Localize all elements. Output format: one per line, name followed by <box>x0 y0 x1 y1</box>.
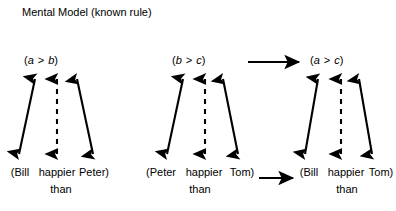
sentence-object: Peter) <box>78 164 110 181</box>
abstract-close-paren: ) <box>340 54 344 66</box>
mapping-arrows-premise-2 <box>167 79 238 154</box>
sentence-relation: happier <box>182 164 226 181</box>
mapping-arrows-conclusion <box>305 79 372 154</box>
sentence-connector: than <box>140 181 258 198</box>
sentence-subject: (Peter <box>140 164 182 181</box>
mental-model-diagram: Mental Model (known rule) <box>0 0 396 211</box>
diagram-title: Mental Model (known rule) <box>22 6 152 19</box>
mapping-arrows-premise-1 <box>19 79 93 154</box>
sentence-relation: happier <box>36 164 78 181</box>
sentence-connector: than <box>294 181 394 198</box>
mapping-arrow-solid-right <box>223 79 238 154</box>
mapping-arrow-solid-right <box>359 79 372 154</box>
abstract-conclusion: (a>c) <box>310 54 343 67</box>
sentence-connector: than <box>4 181 110 198</box>
sentence-object: Tom) <box>368 164 394 181</box>
mapping-arrow-solid-right <box>77 79 93 154</box>
abstract-left-term: a <box>28 54 34 66</box>
abstract-operator: > <box>320 54 334 66</box>
mapping-arrow-solid-left <box>19 79 35 154</box>
abstract-operator: > <box>34 54 48 66</box>
concrete-sentence-premise-2: (PeterhappierTom) than <box>140 164 258 198</box>
concrete-sentence-premise-1: (BillhappierPeter) than <box>4 164 110 198</box>
sentence-subject: (Bill <box>294 164 324 181</box>
sentence-subject: (Bill <box>4 164 36 181</box>
mapping-arrow-solid-left <box>167 79 183 154</box>
concrete-sentence-conclusion: (BillhappierTom) than <box>294 164 394 198</box>
abstract-left-term: b <box>176 54 182 66</box>
abstract-premise-1: (a>b) <box>24 54 58 67</box>
abstract-left-term: a <box>314 54 320 66</box>
abstract-close-paren: ) <box>202 54 206 66</box>
abstract-premise-2: (b>c) <box>172 54 205 67</box>
abstract-close-paren: ) <box>54 54 58 66</box>
mapping-arrow-solid-left <box>305 79 318 154</box>
sentence-object: Tom) <box>226 164 258 181</box>
abstract-operator: > <box>182 54 196 66</box>
sentence-relation: happier <box>324 164 368 181</box>
